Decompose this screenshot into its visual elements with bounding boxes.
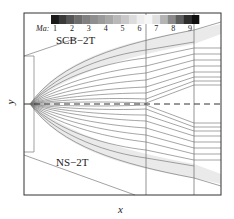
colorbar-swatch <box>82 15 90 24</box>
colorbar-tick: 6 <box>137 24 141 33</box>
colorbar-swatch <box>106 15 114 24</box>
y-axis-label: y <box>4 100 16 105</box>
colorbar-swatch <box>160 15 168 24</box>
colorbar-swatch <box>90 15 98 24</box>
colorbar-tick: 5 <box>121 24 125 33</box>
colorbar <box>51 15 199 24</box>
colorbar-swatch <box>137 15 145 24</box>
region-label-upper: SCB−2T <box>56 34 95 46</box>
colorbar-tick: 2 <box>70 24 74 33</box>
colorbar-swatch <box>129 15 137 24</box>
colorbar-swatch <box>113 15 121 24</box>
colorbar-swatch <box>51 15 59 24</box>
colorbar-tick: 4 <box>104 24 108 33</box>
region-label-lower: NS−2T <box>56 156 88 168</box>
colorbar-swatch <box>67 15 75 24</box>
colorbar-swatch <box>176 15 184 24</box>
colorbar-tick: 3 <box>87 24 91 33</box>
colorbar-tick: 8 <box>171 24 175 33</box>
colorbar-swatch <box>144 15 152 24</box>
colorbar-swatch <box>121 15 129 24</box>
colorbar-label: Ma: <box>36 24 49 33</box>
x-axis-label: x <box>118 203 123 215</box>
colorbar-swatch <box>191 15 199 24</box>
colorbar-tick: 7 <box>154 24 158 33</box>
colorbar-swatch <box>59 15 67 24</box>
colorbar-swatch <box>74 15 82 24</box>
colorbar-swatch <box>98 15 106 24</box>
colorbar-tick: 1 <box>53 24 57 33</box>
colorbar-swatch <box>183 15 191 24</box>
colorbar-swatch <box>168 15 176 24</box>
colorbar-swatch <box>152 15 160 24</box>
colorbar-tick: 9 <box>188 24 192 33</box>
